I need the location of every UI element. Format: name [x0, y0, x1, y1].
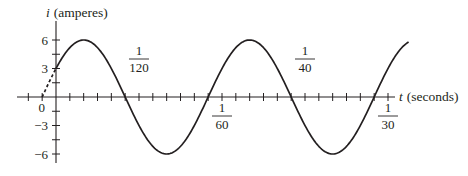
x-tick-fraction-label: 130: [378, 100, 398, 132]
fraction-numerator: 1: [302, 43, 309, 58]
y-tick-label: 3: [42, 61, 49, 76]
x-tick-fraction-label: 160: [212, 100, 232, 132]
y-tick-label: 0: [39, 100, 46, 115]
fraction-numerator: 1: [219, 100, 226, 115]
fraction-numerator: 1: [385, 100, 392, 115]
y-tick-label: 6: [42, 33, 49, 48]
x-axis-label: t(seconds): [399, 89, 459, 104]
y-tick-label: −3: [34, 118, 48, 133]
x-tick-fraction-label: 1120: [129, 43, 149, 75]
x-tick-fraction-label: 140: [295, 43, 315, 75]
fraction-denominator: 40: [299, 60, 312, 75]
fraction-denominator: 30: [381, 117, 394, 132]
fraction-denominator: 60: [216, 117, 229, 132]
axis-labels: i(amperes) t(seconds) 630−3−611201601401…: [34, 5, 458, 162]
fraction-numerator: 1: [136, 43, 143, 58]
fraction-denominator: 120: [129, 60, 149, 75]
axes: [17, 21, 395, 163]
y-axis-label: i(amperes): [46, 5, 108, 20]
sinusoid-chart: i(amperes) t(seconds) 630−3−611201601401…: [0, 0, 468, 176]
y-tick-label: −6: [34, 147, 48, 162]
